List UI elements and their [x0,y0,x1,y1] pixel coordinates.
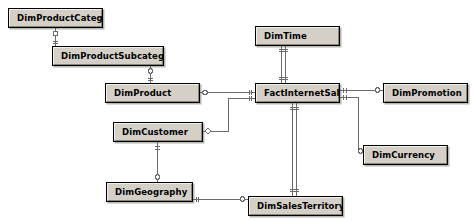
entity-label-dim-geography: DimGeography [115,188,187,197]
connector-geography-territory [193,197,248,202]
entity-label-dim-customer: DimCustomer [122,128,188,137]
connector-subcategory-product [148,66,153,83]
connector-fact-promotion [340,88,383,93]
entity-dim-customer[interactable]: DimCustomer [113,122,203,142]
entity-label-dim-time: DimTime [264,32,307,41]
entity-label-dim-sales-territory: DimSalesTerritory [257,202,343,211]
connector-category-subcategory [53,28,58,46]
entity-dim-product-subcategory[interactable]: DimProductSubcategory [52,46,164,66]
entity-dim-time[interactable]: DimTime [255,26,340,46]
relationship-connectors-layer [0,0,474,223]
entity-label-dim-product-subcategory: DimProductSubcategory [61,52,164,61]
entity-label-dim-currency: DimCurrency [372,151,435,160]
connector-customer-fact [203,96,255,134]
connector-geography-customer [155,142,160,182]
connector-product-fact [200,90,255,95]
entity-label-dim-product: DimProduct [114,89,171,98]
entity-label-dim-promotion: DimPromotion [392,89,462,98]
entity-dim-geography[interactable]: DimGeography [106,182,193,202]
entity-dim-currency[interactable]: DimCurrency [363,145,448,165]
connector-fact-salesterritory [290,103,299,196]
schema-diagram-canvas: DimProductCategory DimProductSubcategory… [0,0,474,223]
connector-time-fact [279,46,288,83]
entity-dim-product[interactable]: DimProduct [105,83,200,103]
entity-dim-product-category[interactable]: DimProductCategory [8,8,103,28]
entity-dim-promotion[interactable]: DimPromotion [383,83,468,103]
entity-dim-sales-territory[interactable]: DimSalesTerritory [248,196,343,216]
connector-fact-currency [340,95,363,154]
entity-fact-internet-sales[interactable]: FactInternetSales [255,83,340,103]
entity-label-fact-internet-sales: FactInternetSales [264,89,340,98]
entity-label-dim-product-category: DimProductCategory [17,14,103,23]
